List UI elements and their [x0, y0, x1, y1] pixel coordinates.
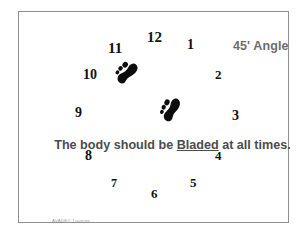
- instruction-emphasis: Bladed: [177, 138, 219, 152]
- clock-numeral-2: 2: [215, 68, 222, 81]
- instruction-text: The body should be Bladed at all times.: [40, 139, 305, 153]
- clock-numeral-5: 5: [190, 176, 197, 189]
- left-footprint-icon: [108, 54, 143, 89]
- clock-numeral-10: 10: [83, 68, 97, 82]
- clock-numeral-3: 3: [232, 109, 239, 123]
- footer-note: AVADE® Training: [52, 219, 90, 223]
- angle-title: 45' Angle: [233, 40, 289, 53]
- clock-numeral-12: 12: [147, 30, 162, 45]
- clock-numeral-7: 7: [111, 177, 117, 189]
- instruction-before: The body should be: [54, 138, 176, 152]
- clock-numeral-6: 6: [151, 187, 158, 200]
- clock-numeral-9: 9: [75, 106, 82, 120]
- clock-numeral-1: 1: [187, 38, 194, 52]
- clock-numeral-11: 11: [108, 41, 122, 56]
- slide-canvas: 45' Angle 121234567891011 The body shoul…: [0, 0, 307, 237]
- instruction-after: at all times.: [219, 138, 291, 152]
- slide-frame: 45' Angle 121234567891011 The body shoul…: [18, 11, 289, 223]
- right-footprint-icon: [155, 93, 185, 125]
